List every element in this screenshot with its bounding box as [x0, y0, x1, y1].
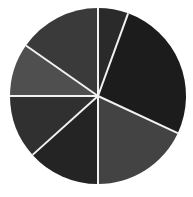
pie-chart-svg — [0, 0, 193, 197]
pie-chart-figure — [0, 0, 193, 197]
